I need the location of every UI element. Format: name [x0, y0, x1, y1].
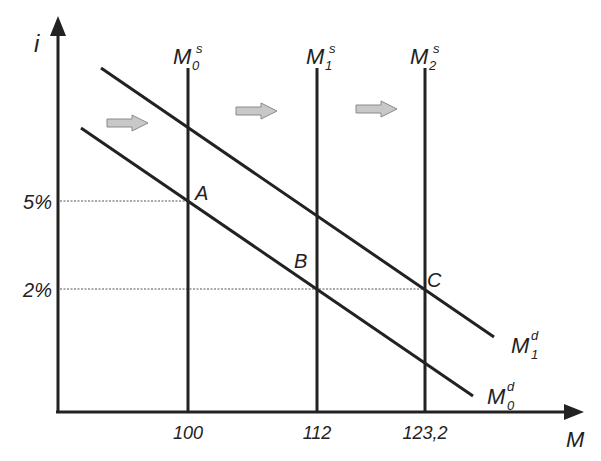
shift-arrow-icon: [356, 101, 397, 117]
svg-text:2: 2: [428, 58, 437, 73]
supply-curve-label-0: M 0 s: [173, 41, 203, 73]
svg-text:M: M: [410, 44, 429, 69]
svg-text:s: s: [329, 41, 336, 56]
svg-text:M: M: [487, 384, 506, 409]
y-axis-label: i: [34, 30, 40, 57]
point-label-b: B: [294, 250, 307, 272]
supply-curve-label-2: M 2 s: [410, 41, 440, 73]
svg-text:s: s: [196, 41, 203, 56]
svg-text:M: M: [306, 44, 325, 69]
x-tick-label: 100: [173, 423, 203, 443]
x-tick-label: 112: [303, 423, 332, 443]
money-market-diagram: i M 5% 2% 100 112 123,2 M 0 s M 1 s M 2 …: [0, 0, 601, 461]
x-tick-label: 123,2: [402, 423, 447, 443]
svg-text:1: 1: [531, 347, 538, 362]
point-label-a: A: [194, 182, 208, 204]
x-axis-label: M: [566, 427, 585, 452]
y-tick-label: 5%: [23, 191, 52, 213]
shift-arrow-icon: [236, 103, 277, 119]
point-label-c: C: [427, 269, 442, 291]
demand-curve-label-1: M 1 d: [511, 328, 539, 362]
demand-curve-0: [81, 128, 473, 396]
svg-text:M: M: [511, 333, 530, 358]
x-axis-arrow-icon: [564, 404, 584, 420]
svg-text:d: d: [507, 379, 515, 394]
shift-arrow-icon: [107, 115, 148, 131]
y-axis: [50, 16, 66, 412]
svg-text:0: 0: [507, 398, 515, 413]
svg-text:d: d: [531, 328, 539, 343]
demand-curve-label-0: M 0 d: [487, 379, 515, 413]
svg-text:0: 0: [192, 58, 200, 73]
demand-curve-1: [101, 68, 494, 337]
svg-text:M: M: [173, 44, 192, 69]
svg-text:1: 1: [325, 58, 332, 73]
y-tick-label: 2%: [22, 279, 52, 301]
svg-text:s: s: [433, 41, 440, 56]
y-axis-arrow-icon: [50, 16, 66, 36]
supply-curve-label-1: M 1 s: [306, 41, 336, 73]
